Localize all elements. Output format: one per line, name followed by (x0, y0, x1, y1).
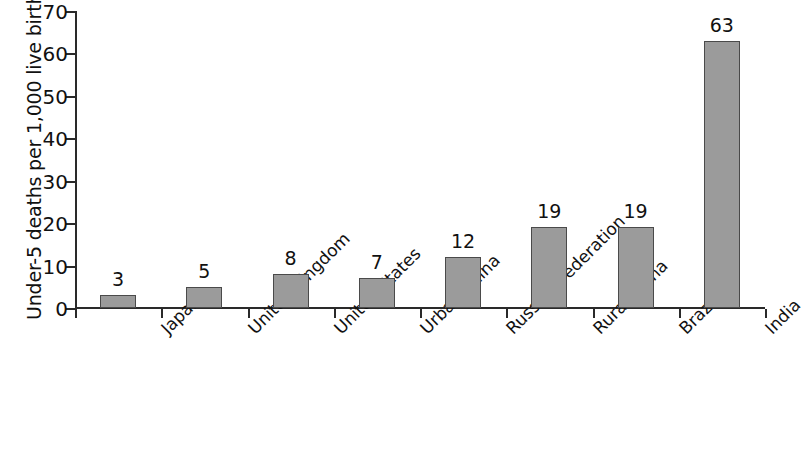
y-tick-label: 30 (43, 172, 68, 192)
bar-value-label: 19 (596, 202, 676, 221)
y-tick-label: 10 (43, 257, 68, 277)
bar-value-label: 19 (509, 202, 589, 221)
x-category-label: United Kingdom (244, 324, 258, 338)
bar (618, 227, 654, 308)
x-tick-mark (593, 309, 595, 318)
x-tick-mark (248, 309, 250, 318)
bar (100, 295, 136, 308)
bar (359, 278, 395, 308)
x-category-label: United States (330, 324, 344, 338)
bar (531, 227, 567, 308)
x-category-label: Rural China (589, 324, 603, 338)
x-tick-mark (75, 309, 77, 318)
bar (704, 41, 740, 308)
bar-value-label: 3 (78, 270, 158, 289)
bar (445, 257, 481, 308)
bar-value-label: 7 (337, 253, 417, 272)
y-tick-label: 40 (43, 129, 68, 149)
x-category-label: Russian Federation (502, 324, 516, 338)
bar-value-label: 5 (164, 262, 244, 281)
x-category-label: Urban China (416, 324, 430, 338)
bar (186, 287, 222, 308)
y-tick-label: 60 (43, 44, 68, 64)
bar-value-label: 63 (682, 16, 762, 35)
y-tick-label: 20 (43, 214, 68, 234)
bar (273, 274, 309, 308)
x-category-label: Brazil (675, 324, 689, 338)
bar-value-label: 8 (251, 249, 331, 268)
y-tick-label: 0 (55, 299, 68, 319)
y-tick-label: 50 (43, 87, 68, 107)
y-tick-label: 70 (43, 2, 68, 22)
bar-value-label: 12 (423, 232, 503, 251)
x-category-label: Japan (157, 324, 171, 338)
x-category-label: India (761, 324, 775, 338)
